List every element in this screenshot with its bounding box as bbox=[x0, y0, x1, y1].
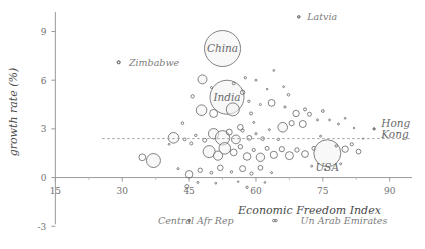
data-bubble bbox=[146, 154, 160, 168]
x-tick-label: 15 bbox=[50, 186, 62, 196]
data-bubble bbox=[230, 171, 232, 173]
data-bubble bbox=[270, 151, 277, 158]
data-bubble bbox=[307, 112, 311, 116]
y-axis-title: growth rate (%) bbox=[7, 68, 20, 157]
data-bubble bbox=[226, 103, 239, 116]
data-bubble bbox=[255, 133, 257, 135]
data-bubble bbox=[289, 121, 294, 126]
data-bubble bbox=[299, 121, 306, 128]
chart-canvas: -30369153045607590 LatviaZimbabweChinaIn… bbox=[0, 0, 425, 249]
annotations-layer: LatviaZimbabweChinaIndiaHongKongUSACentr… bbox=[117, 11, 410, 226]
point-label-china: China bbox=[207, 42, 238, 54]
annotation-marker bbox=[297, 16, 300, 19]
data-bubble bbox=[268, 129, 270, 131]
data-bubble bbox=[139, 154, 146, 161]
data-bubble bbox=[238, 145, 242, 149]
data-bubble bbox=[243, 153, 251, 161]
data-bubble bbox=[253, 121, 255, 123]
data-bubble bbox=[321, 110, 324, 113]
x-tick-label: 60 bbox=[250, 186, 262, 196]
data-bubble bbox=[283, 86, 285, 88]
x-axis-title: Economic Freedom Index bbox=[237, 204, 382, 217]
data-bubble bbox=[342, 146, 348, 152]
data-bubble bbox=[246, 186, 248, 188]
data-bubble bbox=[340, 163, 342, 165]
bubble-chart: -30369153045607590 LatviaZimbabweChinaIn… bbox=[0, 0, 425, 249]
data-bubble bbox=[284, 106, 286, 108]
data-bubble bbox=[329, 119, 331, 121]
data-bubble bbox=[287, 93, 290, 96]
data-bubble bbox=[273, 70, 275, 72]
data-bubble bbox=[198, 168, 202, 172]
annotation-marker bbox=[117, 61, 120, 64]
x-tick-label: 90 bbox=[384, 186, 396, 196]
data-bubble bbox=[302, 151, 309, 158]
y-tick-label: 3 bbox=[41, 124, 47, 134]
y-tick-label: 0 bbox=[41, 173, 47, 183]
data-bubble bbox=[195, 134, 197, 136]
data-bubble bbox=[232, 135, 241, 144]
data-bubble bbox=[210, 171, 213, 174]
point-label-hong-kong-line2: Kong bbox=[380, 128, 409, 140]
data-bubble bbox=[350, 143, 353, 146]
data-bubble bbox=[264, 182, 266, 184]
data-bubble bbox=[278, 122, 288, 132]
data-bubble bbox=[168, 133, 179, 144]
data-bubble bbox=[219, 143, 231, 155]
data-bubble bbox=[210, 109, 218, 117]
data-bubble bbox=[197, 181, 199, 183]
data-bubble bbox=[250, 172, 253, 175]
data-bubble bbox=[268, 100, 275, 107]
data-bubble bbox=[185, 171, 193, 179]
data-bubble bbox=[337, 123, 339, 125]
data-bubble bbox=[210, 86, 212, 88]
data-bubble bbox=[218, 165, 224, 171]
y-tick-label: -3 bbox=[38, 222, 47, 232]
data-bubble bbox=[230, 149, 237, 156]
data-bubble bbox=[198, 75, 207, 84]
annotation-marker bbox=[273, 219, 276, 222]
data-bubble bbox=[295, 148, 299, 152]
point-label-india: India bbox=[212, 91, 240, 103]
x-tick-label: 30 bbox=[117, 186, 129, 196]
data-bubble bbox=[215, 182, 217, 184]
data-bubble bbox=[191, 95, 194, 98]
point-label-central-afr-rep: Central Afr Rep bbox=[158, 215, 234, 226]
data-bubble bbox=[356, 149, 361, 154]
data-bubble bbox=[304, 108, 307, 111]
data-bubble bbox=[265, 146, 269, 150]
y-tick-label: 9 bbox=[41, 27, 47, 37]
point-label-latvia: Latvia bbox=[306, 11, 337, 22]
data-bubble bbox=[258, 165, 263, 170]
data-bubble bbox=[240, 166, 246, 172]
x-tick-label: 45 bbox=[183, 186, 195, 196]
data-bubble bbox=[259, 104, 261, 106]
data-bubble bbox=[320, 135, 322, 137]
data-bubble bbox=[248, 100, 250, 102]
data-bubble bbox=[271, 172, 273, 174]
data-bubble bbox=[190, 142, 193, 145]
bubbles-layer bbox=[117, 16, 375, 222]
data-bubble bbox=[247, 135, 252, 140]
data-bubble bbox=[168, 143, 170, 145]
data-bubble bbox=[316, 119, 318, 121]
point-label-usa: USA bbox=[315, 161, 339, 173]
data-bubble bbox=[244, 77, 246, 79]
data-bubble bbox=[252, 148, 255, 151]
data-bubble bbox=[196, 105, 207, 116]
data-bubble bbox=[344, 117, 346, 119]
data-bubble bbox=[279, 147, 284, 152]
data-bubble bbox=[250, 112, 253, 115]
point-label-zimbabwe: Zimbabwe bbox=[128, 57, 180, 68]
data-bubble bbox=[293, 110, 299, 116]
data-bubble bbox=[285, 152, 293, 160]
data-bubble bbox=[237, 181, 239, 183]
x-tick-label: 75 bbox=[317, 186, 329, 196]
data-bubble bbox=[311, 165, 313, 167]
data-bubble bbox=[266, 88, 268, 90]
data-bubble bbox=[177, 168, 179, 170]
data-bubble bbox=[181, 122, 184, 125]
data-bubble bbox=[353, 127, 355, 129]
data-bubble bbox=[238, 124, 244, 130]
annotation-marker bbox=[373, 128, 375, 130]
